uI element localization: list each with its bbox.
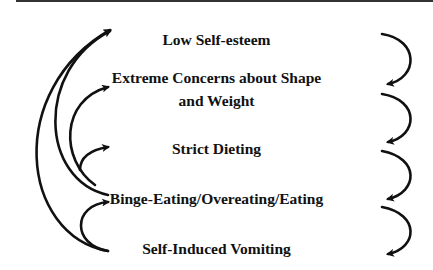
arrow-binge-to-vomiting-icon — [382, 207, 411, 254]
arrow-binge-to-concerns-icon — [70, 87, 108, 185]
arrow-binge-to-dieting-icon — [80, 147, 108, 170]
arrow-dieting-to-binge-icon — [382, 151, 411, 199]
arrows-layer — [0, 0, 433, 270]
arrow-self-esteem-to-concerns-icon — [382, 34, 411, 84]
arrow-binge-to-self-esteem-icon — [55, 31, 110, 195]
arrow-concerns-to-dieting-icon — [382, 94, 411, 142]
